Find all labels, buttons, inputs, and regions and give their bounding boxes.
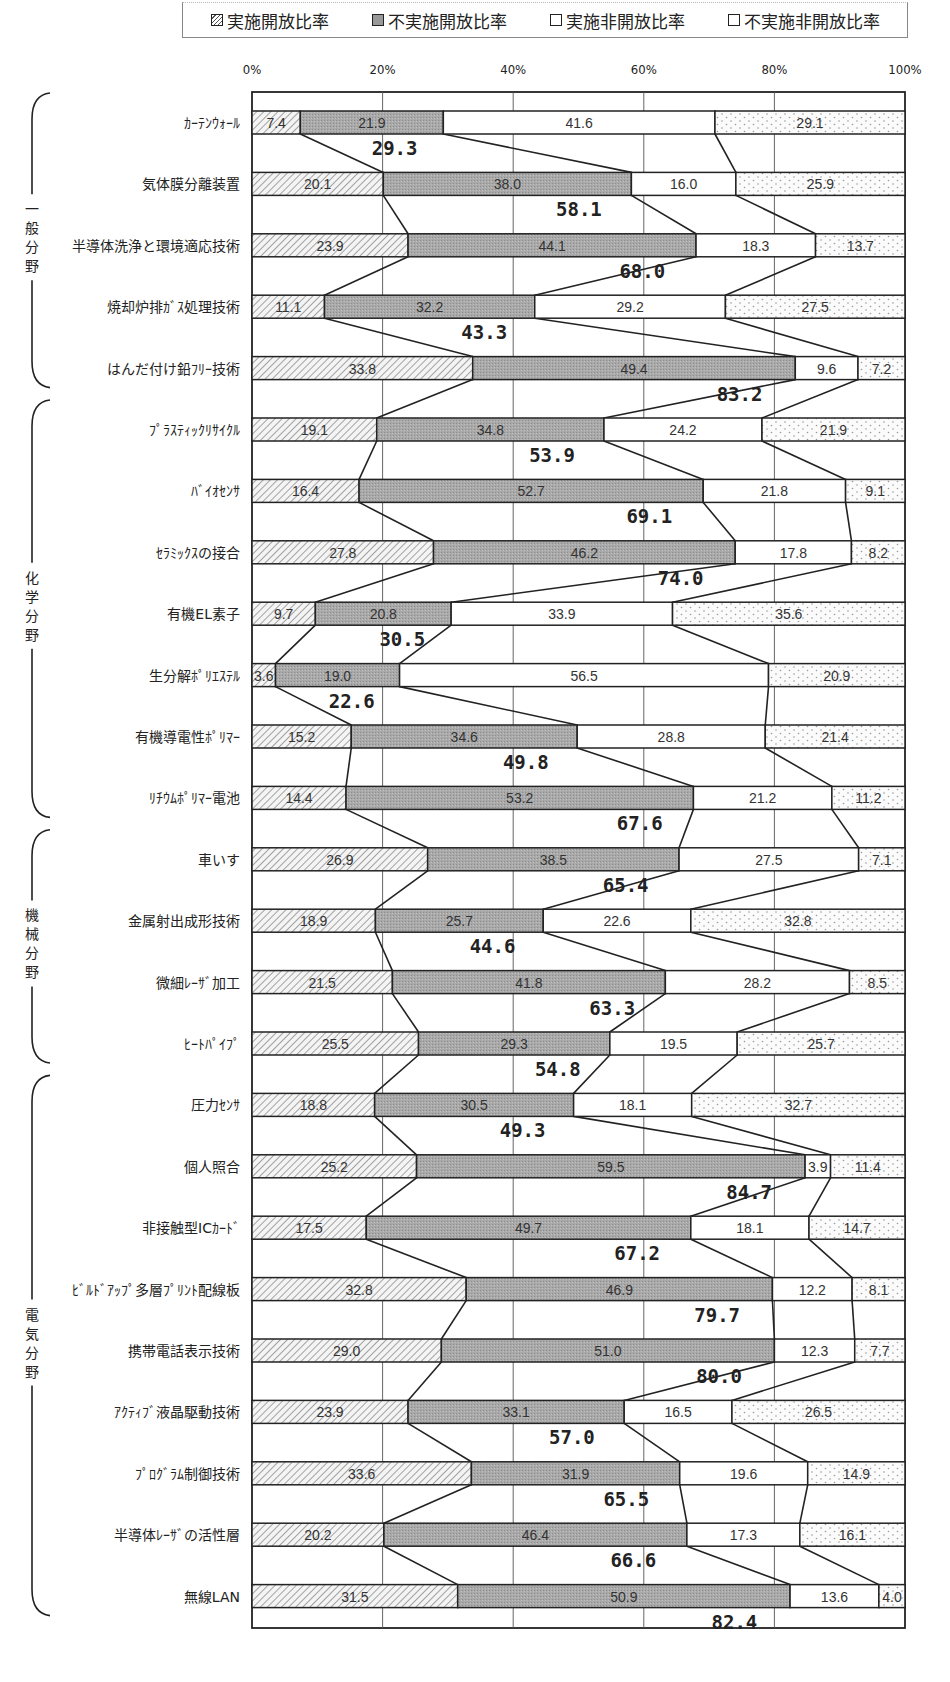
segment-value-label: 32.8	[784, 913, 811, 929]
segment-value-label: 19.1	[301, 422, 328, 438]
open-ratio-total-label: 65.5	[603, 1488, 649, 1510]
segment-value-label: 25.7	[446, 913, 473, 929]
segment-value-label: 26.5	[805, 1404, 832, 1420]
open-ratio-total-label: 57.0	[549, 1426, 595, 1448]
open-ratio-total-label: 69.1	[626, 505, 672, 527]
segment-value-label: 27.8	[329, 545, 356, 561]
segment-value-label: 7.7	[870, 1343, 890, 1359]
group-label-char: 化	[25, 570, 39, 586]
open-ratio-total-label: 74.0	[658, 567, 704, 589]
segment-value-label: 30.5	[460, 1097, 487, 1113]
open-ratio-total-label: 66.6	[610, 1549, 656, 1571]
open-ratio-total-label: 83.2	[717, 383, 763, 405]
category-label: 金属射出成形技術	[128, 913, 240, 929]
segment-value-label: 27.5	[755, 852, 782, 868]
group-label-char: 分	[25, 1345, 39, 1361]
segment-value-label: 20.9	[823, 668, 850, 684]
segment-value-label: 16.0	[670, 176, 697, 192]
category-label: ｾﾗﾐｯｸｽの接合	[156, 545, 240, 561]
open-ratio-total-label: 65.4	[603, 874, 649, 896]
segment-value-label: 13.7	[847, 238, 874, 254]
open-ratio-total-label: 49.8	[503, 751, 549, 773]
segment-value-label: 41.8	[515, 975, 542, 991]
segment-value-label: 33.8	[349, 361, 376, 377]
segment-value-label: 18.1	[619, 1097, 646, 1113]
segment-value-label: 32.8	[345, 1282, 372, 1298]
segment-value-label: 17.5	[296, 1220, 323, 1236]
open-ratio-total-label: 22.6	[329, 690, 375, 712]
segment-value-label: 21.9	[820, 422, 847, 438]
category-label: 半導体洗浄と環境適応技術	[72, 238, 240, 254]
segment-value-label: 38.5	[540, 852, 567, 868]
x-tick-label: 60%	[631, 62, 657, 77]
segment-value-label: 9.6	[817, 361, 837, 377]
category-label: 圧力ｾﾝｻ	[191, 1097, 240, 1113]
category-label: 無線LAN	[184, 1589, 240, 1605]
x-tick-label: 0%	[243, 62, 262, 77]
group-label-char: 械	[25, 926, 39, 942]
segment-value-label: 25.5	[322, 1036, 349, 1052]
segment-value-label: 17.8	[780, 545, 807, 561]
segment-value-label: 29.0	[333, 1343, 360, 1359]
segment-value-label: 19.0	[324, 668, 351, 684]
group-label-char: 分	[25, 945, 39, 961]
segment-value-label: 29.2	[616, 299, 643, 315]
category-label: 半導体ﾚｰｻﾞの活性層	[114, 1527, 240, 1543]
segment-value-label: 27.5	[802, 299, 829, 315]
segment-value-label: 18.1	[736, 1220, 763, 1236]
group-bracket: 機械分野	[25, 830, 50, 1063]
segment-value-label: 21.2	[749, 790, 776, 806]
group-brackets: 一般分野化学分野機械分野電気分野	[25, 93, 50, 1616]
open-ratio-total-label: 82.4	[712, 1611, 758, 1633]
segment-value-label: 33.9	[548, 606, 575, 622]
category-label: ﾋｰﾄﾊﾟｲﾌﾟ	[184, 1036, 240, 1052]
segment-value-label: 35.6	[775, 606, 802, 622]
group-label-char: 野	[25, 964, 39, 980]
segment-value-label: 11.1	[275, 299, 301, 315]
open-ratio-total-label: 67.6	[617, 812, 663, 834]
category-label: 有機導電性ﾎﾟﾘﾏｰ	[135, 729, 240, 745]
category-label: ﾌﾟﾛｸﾞﾗﾑ制御技術	[135, 1466, 240, 1482]
segment-value-label: 18.8	[300, 1097, 327, 1113]
segment-value-label: 11.4	[855, 1159, 881, 1175]
segment-value-label: 20.2	[304, 1527, 331, 1543]
segment-value-label: 23.9	[316, 1404, 343, 1420]
segment-value-label: 59.5	[597, 1159, 624, 1175]
segment-value-label: 3.9	[808, 1159, 828, 1175]
open-ratio-total-label: 80.0	[696, 1365, 742, 1387]
group-label-char: 電	[25, 1307, 39, 1323]
segment-value-label: 14.7	[843, 1220, 870, 1236]
group-bracket: 一般分野	[25, 93, 50, 388]
segment-value-label: 49.4	[620, 361, 647, 377]
group-label-char: 野	[25, 1364, 39, 1380]
segment-value-label: 14.9	[843, 1466, 870, 1482]
segment-value-label: 53.2	[506, 790, 533, 806]
segment-value-label: 51.0	[594, 1343, 621, 1359]
segment-value-label: 8.2	[868, 545, 888, 561]
group-label-char: 野	[25, 258, 39, 274]
open-ratio-total-label: 63.3	[589, 997, 635, 1019]
open-ratio-total-label: 49.3	[500, 1119, 546, 1141]
segment-value-label: 3.6	[254, 668, 274, 684]
segment-value-label: 17.3	[730, 1527, 757, 1543]
segment-value-label: 15.2	[288, 729, 315, 745]
segment-value-label: 46.9	[606, 1282, 633, 1298]
segment-value-label: 29.1	[796, 115, 823, 131]
segment-value-label: 28.2	[744, 975, 771, 991]
group-label-char: 学	[25, 589, 39, 605]
group-label-char: 一	[25, 201, 39, 217]
group-label-char: 野	[25, 627, 39, 643]
segment-value-label: 18.9	[300, 913, 327, 929]
segment-value-label: 13.6	[821, 1589, 848, 1605]
group-label-char: 分	[25, 608, 39, 624]
segment-value-label: 19.5	[660, 1036, 687, 1052]
open-ratio-total-label: 43.3	[461, 321, 507, 343]
open-ratio-total-label: 44.6	[470, 935, 516, 957]
segment-value-label: 4.0	[882, 1589, 902, 1605]
group-bracket: 化学分野	[25, 400, 50, 817]
category-label: ｶｰﾃﾝｳｫｰﾙ	[184, 115, 240, 131]
open-ratio-total-label: 68.0	[619, 260, 665, 282]
category-label: はんだ付け鉛ﾌﾘｰ技術	[107, 361, 240, 377]
segment-value-label: 21.5	[309, 975, 336, 991]
segment-value-label: 19.6	[730, 1466, 757, 1482]
